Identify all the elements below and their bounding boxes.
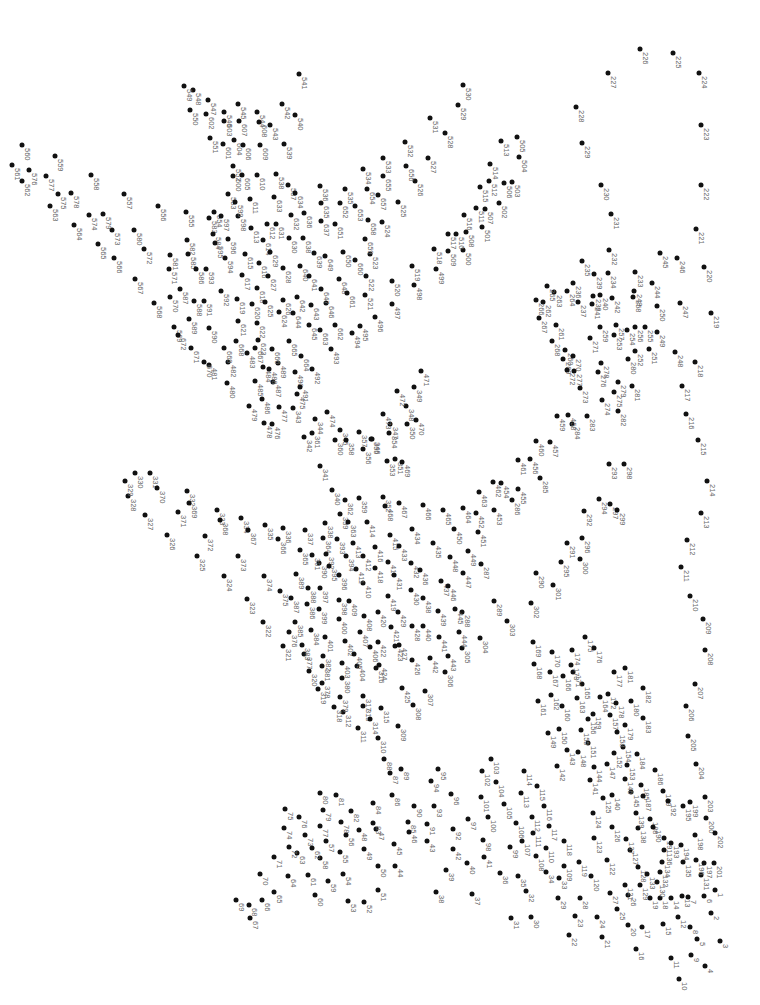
dot-number-label: 273	[582, 391, 590, 404]
puzzle-dot	[295, 392, 300, 397]
dot-number-label: 24	[599, 920, 607, 928]
dot-number-label: 59	[330, 884, 338, 892]
puzzle-dot	[582, 509, 587, 514]
puzzle-dot	[261, 365, 266, 370]
puzzle-dot	[207, 326, 212, 331]
puzzle-dot	[337, 277, 342, 282]
dot-number-label: 514	[492, 167, 500, 180]
dot-number-label: 513	[503, 144, 511, 157]
puzzle-dot	[409, 588, 414, 593]
dot-number-label: 534	[365, 172, 373, 185]
dot-number-label: 91	[429, 827, 437, 835]
dot-number-label: 300	[582, 562, 590, 575]
dot-number-label: 224	[701, 76, 709, 89]
puzzle-dot	[281, 526, 286, 531]
dot-number-label: 480	[229, 386, 237, 399]
dot-number-label: 146	[627, 782, 635, 795]
puzzle-dot	[592, 272, 597, 277]
puzzle-dot	[524, 889, 529, 894]
dot-number-label: 33	[561, 881, 569, 889]
dot-number-label: 621	[240, 324, 248, 337]
puzzle-dot	[600, 398, 605, 403]
dot-number-label: 536	[322, 189, 330, 202]
dot-number-label: 264	[569, 294, 577, 307]
dot-number-label: 528	[447, 136, 455, 149]
puzzle-dot	[387, 431, 392, 436]
puzzle-dot	[357, 496, 362, 501]
puzzle-dot	[212, 210, 217, 215]
dot-number-label: 307	[427, 694, 435, 707]
puzzle-dot	[187, 317, 192, 322]
puzzle-dot	[312, 251, 317, 256]
puzzle-dot	[178, 287, 183, 292]
puzzle-dot	[376, 610, 381, 615]
dot-number-label: 669	[226, 351, 234, 364]
dot-number-label: 286	[514, 503, 522, 516]
puzzle-dot	[381, 412, 386, 417]
dot-number-label: 215	[700, 443, 708, 456]
puzzle-dot	[448, 555, 453, 560]
puzzle-dot	[168, 253, 173, 258]
dot-number-label: 158	[619, 735, 627, 748]
dot-number-label: 672	[180, 338, 188, 351]
puzzle-dot	[536, 699, 541, 704]
dot-number-label: 659	[367, 242, 375, 255]
puzzle-dot	[615, 508, 620, 513]
puzzle-dot	[318, 824, 323, 829]
dot-number-label: 90	[416, 809, 424, 817]
puzzle-dot	[562, 864, 567, 869]
puzzle-dot	[219, 289, 224, 294]
puzzle-dot	[477, 490, 482, 495]
dot-number-label: 398	[341, 603, 349, 616]
dot-number-label: 280	[630, 362, 638, 375]
puzzle-dot	[439, 579, 444, 584]
dot-number-label: 444	[461, 635, 469, 648]
puzzle-dot	[310, 431, 315, 436]
puzzle-dot	[548, 670, 553, 675]
puzzle-dot	[622, 462, 627, 467]
puzzle-dot	[631, 295, 636, 300]
dot-number-label: 617	[244, 278, 252, 291]
dot-number-label: 526	[417, 184, 425, 197]
puzzle-dot	[351, 541, 356, 546]
puzzle-dot	[572, 369, 577, 374]
puzzle-dot	[343, 639, 348, 644]
puzzle-dot	[419, 369, 424, 374]
dot-number-label: 308	[415, 708, 423, 721]
puzzle-dot	[250, 302, 255, 307]
dot-number-label: 64	[290, 879, 298, 887]
puzzle-dot	[441, 508, 446, 513]
puzzle-dot	[684, 704, 689, 709]
dot-number-label: 214	[709, 484, 717, 497]
dot-number-label: 488	[271, 372, 279, 385]
puzzle-dot	[56, 192, 61, 197]
dot-number-label: 194	[683, 848, 691, 861]
puzzle-dot	[421, 596, 426, 601]
puzzle-dot	[658, 870, 663, 875]
dot-number-label: 40	[469, 866, 477, 874]
dot-number-label: 15	[665, 927, 673, 935]
puzzle-dot	[432, 247, 437, 252]
dot-number-label: 57	[328, 844, 336, 852]
puzzle-dot	[341, 872, 346, 877]
dot-number-label: 192	[670, 804, 678, 817]
puzzle-dot	[291, 311, 296, 316]
puzzle-dot	[612, 751, 617, 756]
dot-number-label: 495	[362, 329, 370, 342]
dot-number-label: 612	[269, 227, 277, 240]
dot-number-label: 202	[717, 836, 725, 849]
puzzle-dot	[601, 796, 606, 801]
dot-number-label: 358	[348, 443, 356, 456]
dot-number-label: 515	[482, 190, 490, 203]
dot-number-label: 139	[638, 816, 646, 829]
puzzle-dot	[595, 915, 600, 920]
dot-number-label: 359	[361, 501, 369, 514]
dot-number-label: 87	[392, 776, 400, 784]
dot-number-label: 491	[302, 390, 310, 403]
dot-number-label: 14	[673, 901, 681, 909]
puzzle-dot	[685, 538, 690, 543]
dot-number-label: 20	[630, 928, 638, 936]
puzzle-dot	[236, 554, 241, 559]
puzzle-dot	[318, 184, 323, 189]
dot-number-label: 110	[548, 851, 556, 863]
